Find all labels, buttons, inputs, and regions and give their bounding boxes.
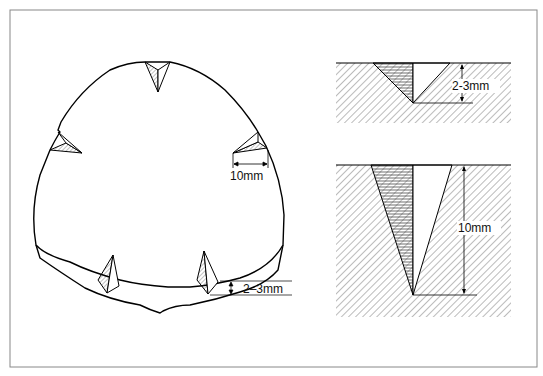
width-label: 10mm bbox=[230, 169, 263, 183]
shallow-depth-label: 2-3mm bbox=[452, 79, 489, 93]
notch-diagram: 10mm 2–3mm 2-3mm 10mm bbox=[0, 0, 543, 376]
stone-illustration bbox=[34, 62, 284, 313]
depth-label: 2–3mm bbox=[243, 282, 283, 296]
deep-notch-section bbox=[336, 165, 511, 317]
deep-depth-label: 10mm bbox=[458, 221, 491, 235]
shallow-notch-section bbox=[336, 63, 511, 123]
